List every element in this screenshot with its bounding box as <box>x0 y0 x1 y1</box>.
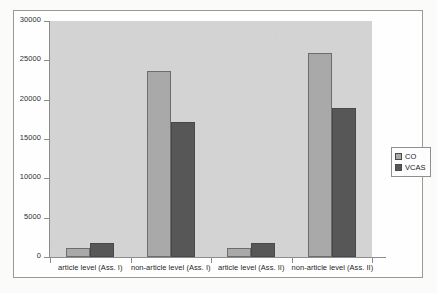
y-axis-tick-label: 10000 <box>20 172 41 181</box>
bar-co-group-4 <box>308 53 332 257</box>
y-axis-tick: 20000 <box>44 100 50 101</box>
y-axis-tick-mark <box>44 139 50 140</box>
y-axis-tick: 5000 <box>44 218 50 219</box>
bar-co-group-3 <box>227 248 251 257</box>
legend-item-co: CO <box>395 151 425 162</box>
legend-swatch-co <box>395 153 402 160</box>
y-axis-tick-mark <box>44 218 50 219</box>
y-axis-tick-mark <box>44 178 50 179</box>
x-axis-category-label: article level (Ass. II) <box>211 263 292 272</box>
y-axis-tick-mark <box>44 100 50 101</box>
bar-vcas-group-2 <box>171 122 195 257</box>
x-axis-category-label: article level (Ass. I) <box>50 263 131 272</box>
chart-canvas: 050001000015000200002500030000 article l… <box>14 11 422 277</box>
y-axis-tick-label: 5000 <box>24 212 41 221</box>
y-axis-tick-label: 30000 <box>20 15 41 24</box>
y-axis-tick: 10000 <box>44 178 50 179</box>
y-axis-tick: 25000 <box>44 60 50 61</box>
legend-item-vcas: VCAS <box>395 162 425 173</box>
y-axis-tick-mark <box>44 21 50 22</box>
x-axis-line <box>49 257 386 258</box>
chart-legend: COVCAS <box>391 147 431 177</box>
y-axis-tick-label: 0 <box>37 251 41 260</box>
y-axis-tick-label: 25000 <box>20 54 41 63</box>
chart-figure-frame: 050001000015000200002500030000 article l… <box>13 10 423 278</box>
bar-co-group-2 <box>147 71 171 257</box>
x-axis-category-label: non-article level (Ass. I) <box>131 263 212 272</box>
y-axis-tick: 30000 <box>44 21 50 22</box>
y-axis-tick-mark <box>44 60 50 61</box>
bar-vcas-group-1 <box>90 243 114 257</box>
y-axis-tick: 15000 <box>44 139 50 140</box>
x-axis-category-label: non-article level (Ass. II) <box>292 263 373 272</box>
legend-swatch-vcas <box>395 164 402 171</box>
legend-item-label: CO <box>405 152 416 161</box>
bar-co-group-1 <box>66 248 90 257</box>
legend-item-label: VCAS <box>405 163 425 172</box>
y-axis-tick-label: 20000 <box>20 94 41 103</box>
bar-vcas-group-3 <box>251 243 275 257</box>
bar-vcas-group-4 <box>332 108 356 257</box>
y-axis-tick-label: 15000 <box>20 133 41 142</box>
